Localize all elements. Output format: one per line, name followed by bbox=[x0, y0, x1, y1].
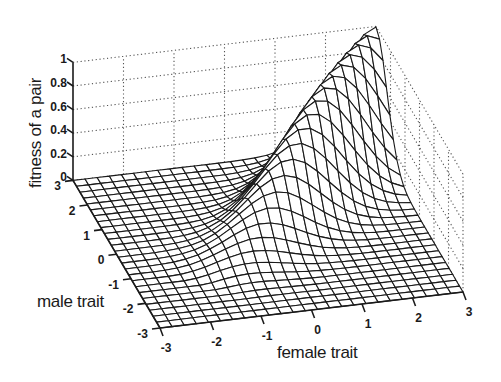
svg-text:-3: -3 bbox=[137, 327, 148, 341]
surface-plot: 00.20.40.60.81-3-2-10123-3-2-10123 bbox=[0, 0, 501, 382]
svg-text:0: 0 bbox=[60, 170, 67, 184]
svg-text:-2: -2 bbox=[123, 302, 134, 316]
svg-text:2: 2 bbox=[69, 204, 76, 218]
svg-text:0.6: 0.6 bbox=[50, 100, 67, 114]
svg-text:0.2: 0.2 bbox=[50, 147, 67, 161]
svg-text:0.4: 0.4 bbox=[50, 123, 67, 137]
male-axis-label: male trait bbox=[37, 292, 104, 312]
svg-text:-1: -1 bbox=[262, 329, 273, 343]
svg-text:-3: -3 bbox=[161, 341, 172, 355]
svg-text:1: 1 bbox=[365, 317, 372, 331]
svg-text:0: 0 bbox=[98, 253, 105, 267]
svg-text:3: 3 bbox=[466, 305, 473, 319]
female-axis-label: female trait bbox=[277, 343, 358, 363]
svg-text:2: 2 bbox=[415, 311, 422, 325]
svg-text:0.8: 0.8 bbox=[50, 76, 67, 90]
svg-text:-2: -2 bbox=[211, 335, 222, 349]
z-axis-label: fitness of a pair bbox=[26, 78, 46, 188]
svg-text:-1: -1 bbox=[108, 278, 119, 292]
svg-text:3: 3 bbox=[54, 179, 61, 193]
svg-text:1: 1 bbox=[60, 52, 67, 66]
svg-text:1: 1 bbox=[83, 229, 90, 243]
svg-text:0: 0 bbox=[314, 323, 321, 337]
